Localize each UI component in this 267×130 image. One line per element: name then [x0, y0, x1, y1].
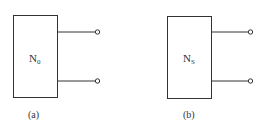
terminal-bottom-b-icon [248, 79, 252, 83]
terminal-top-a-icon [95, 30, 99, 34]
network-label-ns: NS [183, 52, 195, 66]
terminal-top-b-icon [248, 30, 252, 34]
network-label-n0: N0 [29, 52, 41, 66]
caption-b: (b) [183, 109, 195, 121]
figure-b: NS (b) [168, 17, 253, 122]
two-port-diagrams: N0 (a) NS (b) [0, 0, 267, 130]
caption-a: (a) [28, 109, 39, 121]
figure-a: N0 (a) [14, 16, 100, 122]
terminal-bottom-a-icon [95, 79, 99, 83]
